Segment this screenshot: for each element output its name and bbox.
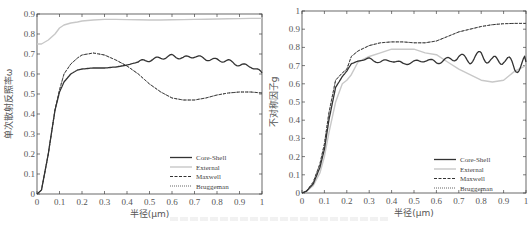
series-core-shell-line xyxy=(37,55,262,195)
legend-label: Core-Shell xyxy=(460,156,490,164)
x-tick-label: 0.9 xyxy=(498,196,510,206)
x-tick-label: 0.7 xyxy=(453,196,465,206)
x-tick-label: 0.5 xyxy=(144,197,156,207)
x-tick-label: 0 xyxy=(300,196,305,206)
x-tick-label: 0.8 xyxy=(476,196,488,206)
y-tick-label: 0.6 xyxy=(289,79,301,89)
x-tick-label: 0.8 xyxy=(211,197,223,207)
y-tick-label: 0.5 xyxy=(289,97,301,107)
x-tick-label: 0.3 xyxy=(99,197,111,207)
y-tick-label: 0.5 xyxy=(24,89,36,99)
x-tick-label: 0.4 xyxy=(121,197,133,207)
y-tick-label: 0 xyxy=(31,189,36,199)
y-tick-label: 0.2 xyxy=(289,152,300,162)
y-tick-label: 0.3 xyxy=(24,129,36,139)
figure-caption-faint xyxy=(170,217,390,221)
y-tick-label: 0.1 xyxy=(289,170,300,180)
x-tick-label: 0.7 xyxy=(189,197,201,207)
x-tick-label: 0.5 xyxy=(408,196,420,206)
y-tick-label: 0.3 xyxy=(289,133,301,143)
x-tick-label: 0.1 xyxy=(54,197,65,207)
x-tick-label: 1 xyxy=(260,197,265,207)
x-axis-label: 半径(μm) xyxy=(130,208,170,219)
y-tick-label: 0.9 xyxy=(24,9,36,19)
series-external-line xyxy=(37,18,262,44)
legend-label: Bruggeman xyxy=(196,183,229,191)
series-core-shell-line xyxy=(302,52,526,193)
y-axis-label: 单次散射反照率ω xyxy=(3,69,14,140)
legend-label: Maxwell xyxy=(196,173,221,181)
y-tick-label: 0.8 xyxy=(24,29,36,39)
x-tick-label: 0.6 xyxy=(166,197,178,207)
legend: Core-ShellExternalMaxwellBruggeman xyxy=(170,154,229,191)
y-axis-label: 不对称因子g xyxy=(268,77,279,128)
albedo-chart: 00.10.20.30.40.50.60.70.80.9100.10.20.30… xyxy=(3,9,264,219)
y-tick-label: 0.7 xyxy=(24,49,36,59)
x-tick-label: 0.2 xyxy=(76,197,87,207)
y-tick-label: 0.6 xyxy=(24,69,36,79)
series-external-line xyxy=(302,49,526,193)
figure: 00.10.20.30.40.50.60.70.80.9100.10.20.30… xyxy=(0,0,532,227)
x-tick-label: 0.9 xyxy=(234,197,246,207)
y-tick-label: 1 xyxy=(296,6,301,16)
y-tick-label: 0.4 xyxy=(24,109,36,119)
plot-frame xyxy=(37,14,262,194)
x-tick-label: 0.1 xyxy=(319,196,330,206)
y-tick-label: 0 xyxy=(296,188,301,198)
y-tick-label: 0.9 xyxy=(289,24,301,34)
legend-label: Bruggeman xyxy=(460,185,493,193)
legend-label: Core-Shell xyxy=(196,154,226,162)
y-tick-label: 0.4 xyxy=(289,115,301,125)
x-tick-label: 0 xyxy=(35,197,40,207)
x-tick-label: 1 xyxy=(524,196,529,206)
y-tick-label: 0.1 xyxy=(24,169,35,179)
y-tick-label: 0.2 xyxy=(24,149,35,159)
x-tick-label: 0.6 xyxy=(431,196,443,206)
x-tick-label: 0.3 xyxy=(364,196,376,206)
x-tick-label: 0.2 xyxy=(341,196,352,206)
asymmetry-chart: 00.10.20.30.40.50.60.70.80.9100.10.20.30… xyxy=(268,6,528,218)
x-axis-label: 半径(μm) xyxy=(394,207,434,218)
x-tick-label: 0.4 xyxy=(386,196,398,206)
legend-label: External xyxy=(460,166,484,174)
y-tick-label: 0.7 xyxy=(289,61,301,71)
legend: Core-ShellExternalMaxwellBruggeman xyxy=(434,156,493,193)
legend-label: Maxwell xyxy=(460,175,485,183)
y-tick-label: 0.8 xyxy=(289,42,301,52)
legend-label: External xyxy=(196,164,220,172)
